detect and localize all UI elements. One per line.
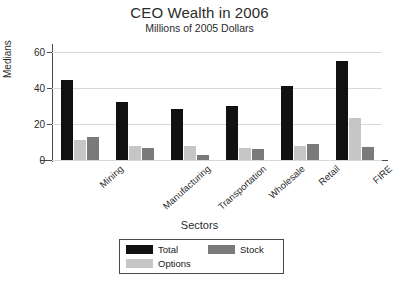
bar-options	[239, 148, 251, 160]
chart-title: CEO Wealth in 2006	[0, 4, 399, 21]
bar-options	[349, 118, 361, 160]
x-axis-tick-label: Transportation	[215, 163, 268, 212]
y-axis-tick-label: 20	[34, 118, 45, 129]
y-axis-tick	[47, 88, 52, 89]
gridline	[52, 160, 382, 161]
chart-figure: CEO Wealth in 2006 Millions of 2005 Doll…	[0, 0, 399, 283]
y-axis-tick	[47, 160, 52, 161]
bar-stock	[197, 155, 209, 160]
bar-total	[226, 106, 238, 160]
bar-group	[226, 48, 264, 160]
legend-item: Stock	[208, 244, 264, 255]
bar-stock	[142, 148, 154, 160]
legend-swatch	[126, 245, 153, 254]
bar-stock	[307, 144, 319, 160]
bar-group	[171, 48, 209, 160]
legend-swatch	[208, 245, 235, 254]
y-axis-tick	[47, 124, 52, 125]
plot-area: 0204060	[52, 48, 382, 160]
gridline	[52, 124, 382, 125]
bar-options	[74, 140, 86, 160]
x-axis-tick-label: FIRE	[370, 163, 393, 186]
x-axis-label: Sectors	[0, 219, 399, 231]
y-axis-tick-label: 40	[34, 82, 45, 93]
bar-group	[116, 48, 154, 160]
y-axis-tick-label: 0	[39, 155, 45, 166]
x-axis-tick-label: Mining	[97, 163, 125, 190]
gridline	[52, 88, 382, 89]
legend-item: Total	[126, 244, 178, 255]
bar-group	[336, 48, 374, 160]
bar-total	[171, 109, 183, 160]
y-axis-tick-label: 60	[34, 46, 45, 57]
x-axis-tick-label: Manufacturing	[160, 163, 212, 211]
gridline	[52, 52, 382, 53]
bar-group	[281, 48, 319, 160]
bar-stock	[252, 149, 264, 160]
x-axis-tick-label: Retail	[316, 163, 341, 187]
legend-label: Total	[158, 244, 178, 255]
bar-total	[281, 86, 293, 160]
bar-stock	[87, 137, 99, 160]
bar-options	[129, 146, 141, 160]
legend-item: Options	[126, 258, 191, 269]
bar-total	[116, 102, 128, 160]
legend-swatch	[126, 259, 153, 268]
legend-label: Options	[158, 258, 191, 269]
x-axis-tick-label: Wholesale	[266, 163, 306, 201]
bar-total	[336, 61, 348, 160]
chart-legend: TotalOptionsStock	[119, 239, 284, 274]
y-axis-tick	[47, 52, 52, 53]
bar-options	[184, 146, 196, 160]
bar-options	[294, 146, 306, 160]
bar-stock	[362, 147, 374, 160]
legend-label: Stock	[240, 244, 264, 255]
bar-total	[61, 80, 73, 160]
chart-subtitle: Millions of 2005 Dollars	[0, 22, 399, 34]
bar-group	[61, 48, 99, 160]
y-axis-label: Medians	[2, 40, 13, 78]
